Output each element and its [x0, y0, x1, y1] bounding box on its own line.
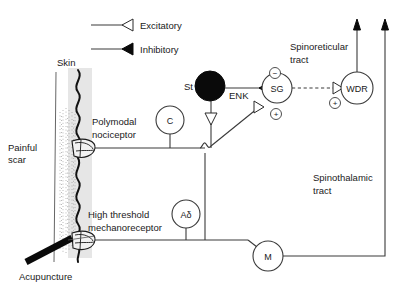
label-spinoreticular-line2: tract	[290, 54, 309, 65]
label-polymodal-line1: Polymodal	[92, 116, 136, 127]
sign-minus-sg-symbol: −	[273, 69, 278, 78]
legend-label-excitatory: Excitatory	[140, 20, 182, 31]
node-wdr-label: WDR	[346, 84, 368, 94]
node-m-label: M	[264, 252, 272, 262]
node-wdr-neuron[interactable]: WDR	[341, 72, 373, 104]
sign-plus-wdr: +	[330, 98, 341, 109]
inhibitory-arrowhead-icon	[122, 43, 133, 55]
node-sg-label: SG	[270, 84, 283, 94]
node-c-fiber[interactable]: C	[156, 106, 184, 134]
legend-item-inhibitory: Inhibitory	[91, 43, 179, 55]
label-painful-scar-line1: Painful	[8, 142, 37, 153]
spinoreticular-arrowhead-icon	[354, 19, 361, 30]
label-painful-scar-line2: scar	[8, 154, 26, 165]
sign-minus-sg: −	[270, 68, 281, 79]
label-spinothalamic-line1: Spinothalamic	[313, 172, 373, 183]
spinothalamic-arrowhead-icon	[382, 19, 389, 30]
node-adelta-label: Aδ	[180, 210, 191, 220]
node-m-neuron[interactable]: M	[253, 241, 283, 271]
sign-plus-sg: +	[271, 109, 282, 120]
label-spinoreticular-line1: Spinoreticular	[290, 41, 348, 52]
label-acupuncture: Acupuncture	[19, 271, 72, 282]
acupuncture-pain-gate-diagram: C St ENK SG WDR Aδ M − + + Excitator	[0, 0, 401, 294]
excitatory-arrowhead-st-icon	[205, 113, 217, 125]
label-polymodal-line2: nociceptor	[92, 129, 136, 140]
diagram-canvas: C St ENK SG WDR Aδ M − + + Excitator	[0, 0, 401, 294]
mechanoreceptor-nerve-ending-icon	[72, 231, 95, 249]
wire-crossover-hop	[200, 143, 211, 148]
legend-label-inhibitory: Inhibitory	[140, 44, 179, 55]
sign-plus-wdr-symbol: +	[333, 99, 338, 108]
label-skin: Skin	[57, 57, 75, 68]
label-high-threshold-line2: mechanoreceptor	[88, 222, 162, 233]
node-c-fiber-label: C	[167, 116, 174, 126]
excitatory-arrowhead-icon	[122, 19, 133, 31]
enk-label: ENK	[229, 90, 249, 101]
sign-plus-sg-symbol: +	[274, 110, 279, 119]
node-a-delta-fiber[interactable]: Aδ	[172, 200, 200, 228]
node-st-label: St	[184, 81, 193, 92]
skin-outer-boundary	[54, 72, 56, 262]
label-high-threshold-line1: High threshold	[88, 209, 149, 220]
excitatory-arrowhead-to-sg-icon	[254, 101, 264, 113]
legend-item-excitatory: Excitatory	[91, 19, 182, 31]
wire-afferent-to-sg	[211, 108, 258, 146]
legend: Excitatory Inhibitory	[91, 19, 182, 55]
node-st-interneuron[interactable]	[195, 71, 225, 101]
label-spinothalamic-line2: tract	[313, 185, 332, 196]
